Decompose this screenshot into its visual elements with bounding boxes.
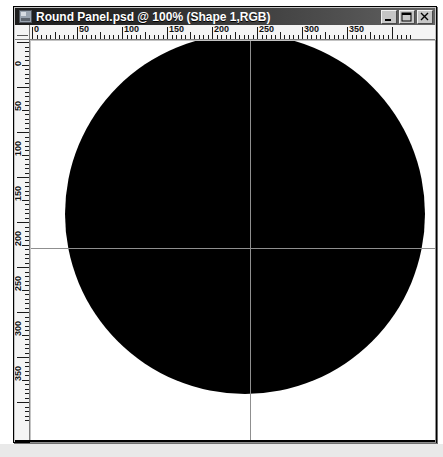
close-icon <box>419 12 431 22</box>
ruler-corner-box[interactable] <box>15 25 30 40</box>
close-button[interactable] <box>417 10 433 24</box>
ruler-tick <box>113 35 114 39</box>
image-canvas[interactable] <box>31 41 435 442</box>
ruler-tick <box>149 35 150 39</box>
ruler-tick <box>25 240 29 241</box>
ruler-label-h: 50 <box>79 25 89 34</box>
ruler-tick <box>248 35 249 39</box>
ruler-tick <box>25 51 29 52</box>
ruler-tick <box>25 231 29 232</box>
ruler-tick <box>25 182 29 183</box>
ruler-tick <box>17 222 29 223</box>
ruler-tick <box>17 402 29 403</box>
ruler-tick <box>25 96 29 97</box>
ruler-tick <box>388 35 389 39</box>
ruler-tick <box>338 35 339 39</box>
ruler-tick <box>244 35 245 39</box>
ruler-tick <box>370 32 371 39</box>
ruler-tick <box>25 407 29 408</box>
ruler-tick <box>25 375 29 376</box>
ruler-tick <box>25 186 29 187</box>
ruler-tick <box>316 35 317 39</box>
ruler-tick <box>140 35 141 39</box>
ruler-tick <box>253 35 254 39</box>
maximize-button[interactable] <box>399 10 415 24</box>
ruler-tick <box>25 263 29 264</box>
ruler-tick <box>352 35 353 39</box>
ruler-label-h: 200 <box>214 25 229 34</box>
ruler-tick <box>25 236 29 237</box>
ruler-tick <box>82 35 83 39</box>
ruler-tick <box>329 35 330 39</box>
ruler-tick <box>347 27 348 39</box>
ruler-tick <box>302 27 303 39</box>
ruler-tick <box>100 32 101 39</box>
ruler-tick <box>298 35 299 39</box>
ruler-tick <box>401 35 402 39</box>
ruler-tick <box>17 132 29 133</box>
ruler-tick <box>307 35 308 39</box>
ruler-tick <box>25 146 29 147</box>
ruler-tick <box>25 321 29 322</box>
minimize-button[interactable] <box>381 10 397 24</box>
ruler-tick <box>361 35 362 39</box>
ruler-tick <box>25 398 29 399</box>
ruler-label-h: 300 <box>304 25 319 34</box>
vertical-ruler[interactable]: 050100150200250300350 <box>15 40 30 442</box>
ruler-tick <box>203 35 204 39</box>
ruler-tick <box>217 35 218 39</box>
ruler-tick <box>25 348 29 349</box>
ruler-tick <box>392 27 393 39</box>
ruler-tick <box>25 92 29 93</box>
shape-1-circle[interactable] <box>65 41 425 394</box>
ruler-tick <box>167 27 168 39</box>
ruler-tick <box>17 312 29 313</box>
ruler-tick <box>199 35 200 39</box>
ruler-label-h: 250 <box>259 25 274 34</box>
ruler-tick <box>25 416 29 417</box>
ruler-tick <box>25 276 29 277</box>
ruler-tick <box>320 35 321 39</box>
ruler-tick <box>158 35 159 39</box>
ruler-tick <box>25 168 29 169</box>
ruler-tick <box>230 35 231 39</box>
ruler-tick <box>25 420 29 421</box>
ruler-tick <box>325 32 326 39</box>
guide-horizontal[interactable] <box>31 248 435 249</box>
ruler-tick <box>397 35 398 39</box>
minimize-icon <box>383 12 395 22</box>
ruler-tick <box>25 344 29 345</box>
ruler-tick <box>239 35 240 39</box>
ruler-tick <box>212 27 213 39</box>
ruler-tick <box>22 65 29 66</box>
photoshop-document-window[interactable]: Round Panel.psd @ 100% (Shape 1,RGB) 050… <box>13 6 437 443</box>
ruler-tick <box>25 353 29 354</box>
ruler-tick <box>334 35 335 39</box>
ruler-label-h: 350 <box>349 25 364 34</box>
ruler-tick <box>25 209 29 210</box>
desktop-taskbar-band <box>0 444 443 457</box>
horizontal-ruler[interactable]: 050100150200250300350 <box>30 25 435 40</box>
guide-vertical[interactable] <box>250 41 251 442</box>
ruler-tick <box>25 114 29 115</box>
ruler-tick <box>25 362 29 363</box>
ruler-tick <box>17 267 29 268</box>
ruler-label-h: 100 <box>124 25 139 34</box>
ruler-tick <box>25 317 29 318</box>
window-bottom-edge <box>15 440 435 442</box>
ruler-tick <box>25 258 29 259</box>
ruler-tick <box>293 35 294 39</box>
ruler-tick <box>25 128 29 129</box>
title-bar[interactable]: Round Panel.psd @ 100% (Shape 1,RGB) <box>15 8 435 25</box>
ruler-tick <box>25 213 29 214</box>
ruler-tick <box>280 32 281 39</box>
ruler-tick <box>343 35 344 39</box>
ruler-tick <box>22 155 29 156</box>
ruler-tick <box>25 137 29 138</box>
ruler-tick <box>266 35 267 39</box>
ruler-tick <box>17 177 29 178</box>
ruler-tick <box>356 35 357 39</box>
ruler-tick <box>25 411 29 412</box>
ruler-tick <box>25 74 29 75</box>
ruler-tick <box>25 173 29 174</box>
